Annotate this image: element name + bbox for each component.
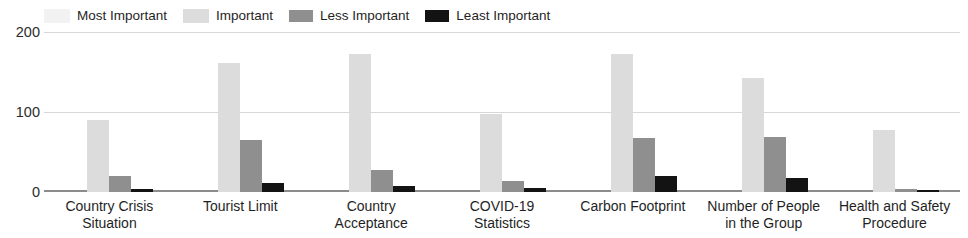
bar-group-bars bbox=[175, 32, 306, 192]
bar[interactable] bbox=[262, 183, 284, 192]
bar[interactable] bbox=[917, 190, 939, 192]
bar[interactable] bbox=[480, 114, 502, 192]
legend-swatch-less-important bbox=[289, 10, 313, 22]
bar-group bbox=[437, 32, 568, 192]
x-axis-label: Country CrisisSituation bbox=[44, 196, 175, 238]
bar-group-bars bbox=[829, 32, 960, 192]
legend-swatch-important bbox=[183, 9, 209, 23]
bar[interactable] bbox=[371, 170, 393, 192]
bar[interactable] bbox=[109, 176, 131, 192]
bar-group-bars bbox=[44, 32, 175, 192]
y-tick-100: 100 bbox=[0, 104, 40, 120]
x-axis-label-line: Health and Safety bbox=[829, 198, 960, 215]
bar[interactable] bbox=[764, 137, 786, 192]
bar-group bbox=[306, 32, 437, 192]
bar[interactable] bbox=[633, 138, 655, 192]
bar-group-bars bbox=[567, 32, 698, 192]
bar[interactable] bbox=[393, 186, 415, 192]
bar-group-bars bbox=[306, 32, 437, 192]
chart-legend: Most Important Important Less Important … bbox=[44, 6, 566, 26]
x-axis-label: Number of Peoplein the Group bbox=[698, 196, 829, 238]
legend-item-most-important[interactable]: Most Important bbox=[44, 9, 167, 23]
grouped-bar-chart: Most Important Important Less Important … bbox=[0, 0, 968, 238]
x-axis-label-line: Tourist Limit bbox=[175, 198, 306, 215]
bar-group bbox=[698, 32, 829, 192]
bar-group bbox=[567, 32, 698, 192]
legend-label-less-important: Less Important bbox=[320, 9, 409, 23]
legend-label-most-important: Most Important bbox=[77, 9, 167, 23]
x-axis-label-line: Acceptance bbox=[306, 215, 437, 232]
bar[interactable] bbox=[895, 189, 917, 192]
bar-group-bars bbox=[698, 32, 829, 192]
x-axis-label-line: Carbon Footprint bbox=[567, 198, 698, 215]
x-axis-label-line: COVID-19 bbox=[437, 198, 568, 215]
plot-area bbox=[44, 32, 960, 192]
y-tick-200: 200 bbox=[0, 24, 40, 40]
x-axis-label: Tourist Limit bbox=[175, 196, 306, 238]
bar[interactable] bbox=[87, 120, 109, 192]
bar-group bbox=[175, 32, 306, 192]
x-axis-label: COVID-19Statistics bbox=[437, 196, 568, 238]
x-axis-label: CountryAcceptance bbox=[306, 196, 437, 238]
x-axis-label: Health and SafetyProcedure bbox=[829, 196, 960, 238]
bar[interactable] bbox=[873, 130, 895, 192]
x-axis-label-line: Statistics bbox=[437, 215, 568, 232]
legend-label-least-important: Least Important bbox=[456, 9, 550, 23]
bar-groups bbox=[44, 32, 960, 192]
bar[interactable] bbox=[218, 63, 240, 192]
x-axis-label: Carbon Footprint bbox=[567, 196, 698, 238]
legend-label-important: Important bbox=[216, 9, 273, 23]
x-axis-label-line: Situation bbox=[44, 215, 175, 232]
bar[interactable] bbox=[524, 188, 546, 192]
bar-group bbox=[829, 32, 960, 192]
x-axis-label-line: Number of People bbox=[698, 198, 829, 215]
bar[interactable] bbox=[786, 178, 808, 192]
legend-item-less-important[interactable]: Less Important bbox=[289, 9, 409, 23]
legend-swatch-most-important bbox=[44, 9, 70, 23]
legend-swatch-least-important bbox=[425, 10, 449, 22]
bar[interactable] bbox=[742, 78, 764, 192]
bar-group-bars bbox=[437, 32, 568, 192]
x-axis-labels: Country CrisisSituationTourist LimitCoun… bbox=[44, 196, 960, 238]
bar[interactable] bbox=[349, 54, 371, 192]
x-axis-label-line: in the Group bbox=[698, 215, 829, 232]
legend-item-important[interactable]: Important bbox=[183, 9, 273, 23]
bar[interactable] bbox=[502, 181, 524, 192]
bar[interactable] bbox=[131, 189, 153, 192]
x-axis-label-line: Country bbox=[306, 198, 437, 215]
bar[interactable] bbox=[240, 140, 262, 192]
y-tick-0: 0 bbox=[0, 184, 40, 200]
bar[interactable] bbox=[611, 54, 633, 192]
x-axis-label-line: Procedure bbox=[829, 215, 960, 232]
bar-group bbox=[44, 32, 175, 192]
legend-item-least-important[interactable]: Least Important bbox=[425, 9, 550, 23]
x-axis-label-line: Country Crisis bbox=[44, 198, 175, 215]
bar[interactable] bbox=[655, 176, 677, 192]
y-axis: 200 100 0 bbox=[0, 32, 40, 192]
